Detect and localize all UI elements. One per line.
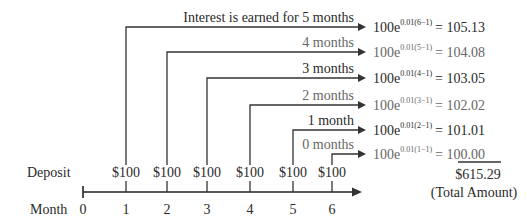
tick-label-5: 5	[290, 202, 297, 217]
month-axis-label: Month	[30, 202, 67, 217]
deposit-1: $100	[112, 165, 140, 180]
duration-labels: Interest is earned for 5 months 4 months…	[183, 10, 354, 152]
deposit-timeline-diagram: Interest is earned for 5 months 4 months…	[0, 0, 527, 220]
arrowhead-icon	[358, 126, 366, 134]
row-label-3: 3 months	[302, 61, 354, 76]
arrow-month-6	[332, 154, 358, 165]
tick-label-0: 0	[80, 202, 87, 217]
deposit-3: $100	[193, 165, 221, 180]
row-label-1: Interest is earned for 5 months	[183, 10, 354, 25]
formula-2: 100e0.01(5−1)= 104.08	[373, 43, 485, 60]
deposit-row: Deposit $100 $100 $100 $100 $100 $100	[27, 165, 346, 180]
arrowhead-icon	[358, 150, 366, 158]
deposit-5: $100	[279, 165, 307, 180]
formula-1: 100e0.01(6−1)= 105.13	[373, 18, 485, 35]
arrowhead-icon	[358, 74, 366, 82]
total-value: $615.29	[455, 167, 501, 182]
tick-label-2: 2	[164, 202, 171, 217]
deposit-6: $100	[318, 165, 346, 180]
arrowhead-icon	[358, 23, 366, 31]
total-label: (Total Amount)	[431, 185, 518, 201]
formula-4: 100e0.01(3−1)= 102.02	[373, 96, 485, 113]
tick-label-1: 1	[123, 202, 130, 217]
row-label-6: 0 months	[302, 137, 354, 152]
formula-6: 100e0.01(1−1)= 100.00	[373, 145, 485, 162]
deposit-2: $100	[153, 165, 181, 180]
month-axis: Month 0 1 2 3 4 5 6	[30, 181, 362, 217]
formula-3: 100e0.01(4−1)= 103.05	[373, 69, 485, 86]
arrowhead-icon	[358, 101, 366, 109]
formulas: 100e0.01(6−1)= 105.13 100e0.01(5−1)= 104…	[373, 18, 501, 162]
total-block: $615.29 (Total Amount)	[431, 167, 518, 201]
formula-5: 100e0.01(2−1)= 101.01	[373, 121, 485, 138]
tick-label-6: 6	[329, 202, 336, 217]
row-label-5: 1 month	[308, 113, 354, 128]
axis-arrowhead-icon	[352, 188, 362, 197]
tick-label-3: 3	[204, 202, 211, 217]
deposit-4: $100	[236, 165, 264, 180]
tick-label-4: 4	[247, 202, 254, 217]
row-label-2: 4 months	[302, 35, 354, 50]
deposit-axis-label: Deposit	[27, 165, 71, 180]
arrowhead-icon	[358, 48, 366, 56]
row-label-4: 2 months	[302, 88, 354, 103]
